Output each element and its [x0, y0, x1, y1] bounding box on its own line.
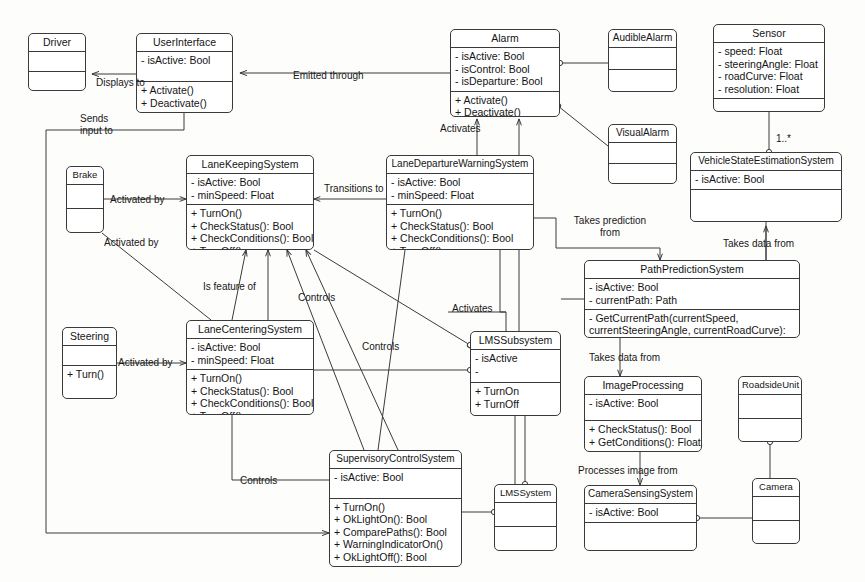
- class-operations: [753, 521, 799, 544]
- class-attributes: [29, 52, 85, 72]
- uml-class-imageprocessing[interactable]: ImageProcessing - isActive: Bool + Check…: [584, 376, 702, 452]
- attribute-row: - resolution: Float: [718, 83, 821, 96]
- uml-class-lanecenteringsystem[interactable]: LaneCenteringSystem - isActive: Bool - m…: [186, 320, 314, 415]
- uml-class-audiblealarm[interactable]: AudibleAlarm: [608, 29, 677, 92]
- edge-label-multiplicity-sensor: 1..*: [776, 133, 804, 145]
- operation-row: + Turn(): [67, 368, 113, 381]
- operation-row: + ComparePaths(): Bool: [334, 526, 458, 539]
- attribute-row: - isActive: Bool: [191, 341, 310, 354]
- attribute-row: - isActive: Bool: [695, 173, 838, 186]
- operation-row: + CheckStatus(): Bool: [391, 220, 530, 233]
- edge-label-activated-by-steering-lcs: Activated by: [118, 357, 190, 369]
- class-name: ImageProcessing: [585, 377, 701, 395]
- edge-label-takes-prediction-from: Takes prediction from: [563, 215, 657, 238]
- class-attributes: - isActive: Bool - minSpeed: Float: [187, 174, 313, 205]
- edge-label-activated-by-brake-lks: Activated by: [110, 194, 182, 206]
- uml-class-brake[interactable]: Brake: [66, 166, 104, 233]
- class-operations: + TurnOn() + CheckStatus(): Bool + Check…: [187, 370, 313, 415]
- uml-class-driver[interactable]: Driver: [28, 33, 86, 91]
- operation-row: + GetConditions(): Float: [589, 436, 698, 449]
- operation-row: + CheckStatus(): Bool: [589, 423, 698, 436]
- edge-label-activated-by-brake-lcs: Activated by: [104, 237, 176, 249]
- attribute-row: - isActive: Bool: [191, 176, 310, 189]
- class-name: CameraSensingSystem: [585, 486, 696, 504]
- class-attributes: - isActive: Bool - minSpeed: Float: [387, 174, 533, 205]
- edge-label-controls-upper: Controls: [298, 292, 352, 304]
- uml-class-camerasensingsystem[interactable]: CameraSensingSystem - isActive: Bool: [584, 485, 697, 551]
- operation-row: + CheckConditions(): Bool: [391, 232, 530, 245]
- class-operations: [609, 70, 676, 91]
- attribute-row: - isActive: Bool: [589, 281, 796, 294]
- class-operations: [714, 99, 824, 111]
- operation-row: + TurnOff(): [191, 410, 310, 416]
- attribute-row: - minSpeed: Float: [191, 354, 310, 367]
- class-attributes: - isActive: Bool: [585, 504, 696, 523]
- class-operations: [609, 164, 676, 184]
- uml-class-camera[interactable]: Camera: [752, 478, 800, 544]
- edge-label-takes-data-from-imageprocessing: Takes data from: [589, 352, 683, 364]
- class-name: AudibleAlarm: [609, 30, 676, 48]
- class-attributes: [739, 395, 801, 419]
- operation-row: + TurnOn(): [191, 207, 310, 220]
- class-name: SupervisoryControlSystem: [330, 451, 461, 469]
- uml-class-lanedeparturewarningsystem[interactable]: LaneDepartureWarningSystem - isActive: B…: [386, 155, 534, 250]
- uml-class-sensor[interactable]: Sensor - speed: Float - steeringAngle: F…: [713, 24, 825, 112]
- operation-row: + CheckStatus(): Bool: [191, 385, 310, 398]
- operation-row: + TurnOn(): [334, 501, 458, 514]
- class-name: Steering: [63, 328, 116, 346]
- attribute-row: - minSpeed: Float: [191, 189, 310, 202]
- class-attributes: - isActive -: [471, 350, 560, 383]
- operation-row: + CheckStatus(): Bool: [191, 220, 310, 233]
- operation-row: + TurnOn(): [191, 372, 310, 385]
- operation-row: - GetCurrentPath(currentSpeed, currentSt…: [589, 312, 796, 338]
- class-name: Driver: [29, 34, 85, 52]
- uml-class-vehiclestateestimationsystem[interactable]: VehicleStateEstimationSystem - isActive:…: [690, 152, 842, 222]
- uml-class-lmssystem[interactable]: LMSSystem: [494, 484, 557, 551]
- class-attributes: - isActive: Bool: [691, 171, 841, 190]
- class-operations: + TurnOn() + CheckStatus(): Bool + Check…: [187, 205, 313, 250]
- uml-class-pathpredictionsystem[interactable]: PathPredictionSystem - isActive: Bool - …: [584, 260, 800, 338]
- class-attributes: - isActive: Bool - currentPath: Path: [585, 279, 799, 310]
- uml-class-userinterface[interactable]: UserInterface - isActive: Bool + Activat…: [136, 33, 233, 113]
- class-name: VisualAlarm: [609, 125, 676, 143]
- operation-row: + TurnOn: [475, 385, 557, 398]
- class-attributes: [609, 143, 676, 164]
- uml-class-steering[interactable]: Steering + Turn(): [62, 327, 117, 399]
- class-attributes: [63, 346, 116, 366]
- edge-label-displays-to: Displays to: [96, 77, 166, 89]
- class-attributes: - isActive: Bool - minSpeed: Float: [187, 339, 313, 370]
- class-operations: [691, 190, 841, 222]
- attribute-row: - currentPath: Path: [589, 294, 796, 307]
- uml-class-lanekeepingsystem[interactable]: LaneKeepingSystem - isActive: Bool - min…: [186, 155, 314, 250]
- attribute-row: - steeringAngle: Float: [718, 58, 821, 71]
- class-name: LMSSystem: [495, 485, 556, 503]
- edge-label-activates-alarm: Activates: [440, 123, 498, 135]
- operation-row: + TurnOn(): [391, 207, 530, 220]
- attribute-row: - isDeparture: Bool: [455, 75, 556, 88]
- class-operations: - GetCurrentPath(currentSpeed, currentSt…: [585, 310, 799, 338]
- attribute-row: - isActive: Bool: [589, 506, 693, 519]
- uml-class-alarm[interactable]: Alarm - isActive: Bool - isControl: Bool…: [450, 29, 560, 117]
- class-operations: [29, 72, 85, 91]
- edge-label-controls-middle: Controls: [362, 341, 416, 353]
- attribute-row: - roadCurve: Float: [718, 70, 821, 83]
- class-attributes: [609, 48, 676, 70]
- class-attributes: [67, 185, 103, 209]
- class-name: VehicleStateEstimationSystem: [691, 153, 841, 171]
- uml-class-supervisorycontrolsystem[interactable]: SupervisoryControlSystem - isActive: Boo…: [329, 450, 462, 567]
- edge-label-transitions-to: Transitions to: [324, 183, 402, 195]
- edge-label-processes-image-from: Processes image from: [578, 465, 706, 477]
- uml-class-roadsideunit[interactable]: RoadsideUnit: [738, 376, 802, 442]
- operation-row: + Deactivate(): [455, 106, 556, 117]
- class-operations: [585, 523, 696, 551]
- attribute-row: - isActive: Bool: [334, 471, 458, 484]
- uml-class-lmssubsystem[interactable]: LMSSubsystem - isActive - + TurnOn + Tur…: [470, 331, 561, 416]
- operation-row: + Activate(): [455, 94, 556, 107]
- operation-row: + CheckConditions(): Bool: [191, 232, 310, 245]
- operation-row: + TurnOff(): [191, 245, 310, 251]
- class-operations: + TurnOn() + OkLightOn(): Bool + Compare…: [330, 499, 461, 567]
- attribute-row: - isControl: Bool: [455, 63, 556, 76]
- class-operations: [739, 419, 801, 442]
- class-operations: + Activate() + Deactivate(): [451, 92, 559, 118]
- uml-class-visualalarm[interactable]: VisualAlarm: [608, 124, 677, 184]
